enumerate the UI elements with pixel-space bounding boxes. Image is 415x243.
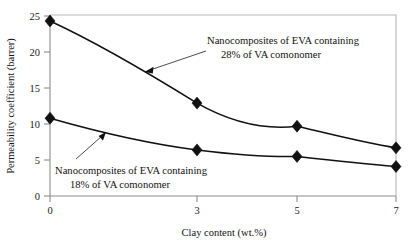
y-tick-label-15: 15 (30, 83, 41, 94)
y-tick-label-10: 10 (30, 119, 41, 130)
annotation-lower-line1: Nanocomposites of EVA containing (55, 165, 208, 176)
x-tick-label-0: 0 (47, 205, 52, 216)
x-axis-title: Clay content (wt.%) (182, 227, 267, 239)
y-tick-label-25: 25 (30, 11, 41, 22)
x-tick-label-5: 5 (294, 205, 299, 216)
x-tick-label-3: 3 (194, 205, 199, 216)
y-tick-label-5: 5 (35, 155, 40, 166)
y-axis-title: Permeability coefficient (barrer) (5, 38, 17, 174)
x-tick-label-7: 7 (393, 205, 398, 216)
annotation-lower-line2: 18% of VA comonomer (70, 179, 170, 190)
chart-figure: 0 5 10 15 20 25 0 3 5 7 Clay content (wt… (0, 0, 415, 243)
annotation-upper-line2: 28% of VA comonomer (221, 49, 321, 60)
y-tick-label-0: 0 (35, 191, 40, 202)
permeability-vs-clay-content-chart: 0 5 10 15 20 25 0 3 5 7 Clay content (wt… (0, 0, 415, 243)
y-tick-label-20: 20 (30, 47, 41, 58)
annotation-upper-line1: Nanocomposites of EVA containing (207, 35, 360, 46)
